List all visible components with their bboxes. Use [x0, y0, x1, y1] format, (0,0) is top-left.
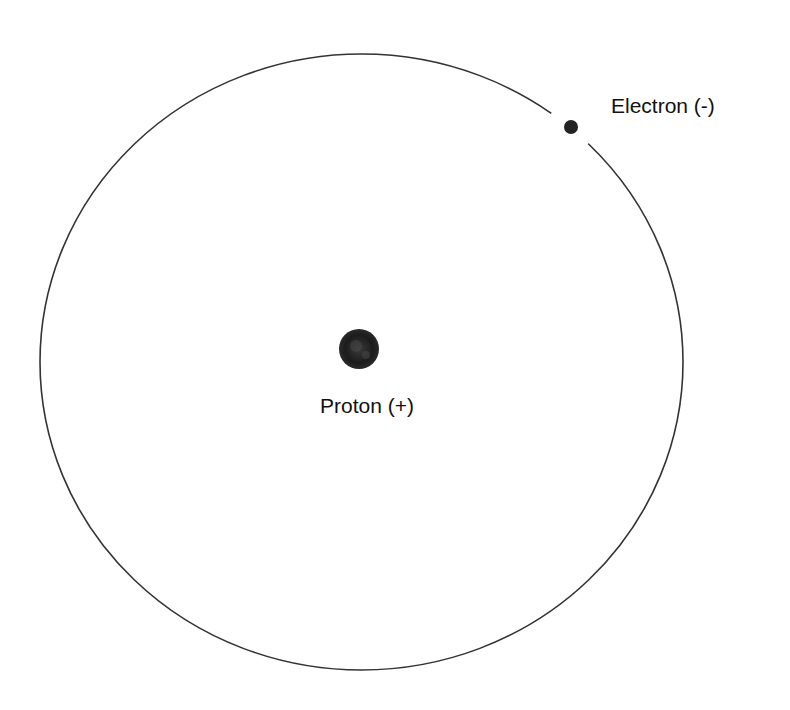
- proton-label: Proton (+): [320, 395, 414, 416]
- proton-texture: [350, 340, 362, 352]
- proton-texture: [362, 351, 370, 359]
- electron-label: Electron (-): [611, 95, 715, 116]
- electron-dot: [564, 120, 578, 134]
